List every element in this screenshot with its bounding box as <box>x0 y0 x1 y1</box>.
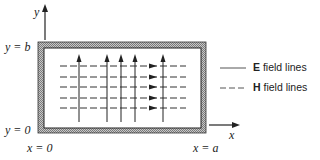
legend-h-field: H field lines <box>253 81 307 93</box>
legend-e-field: E field lines <box>253 61 307 73</box>
x-left-boundary-label: x = 0 <box>27 142 52 154</box>
y-axis-label: y <box>34 6 39 18</box>
y-axis <box>42 4 48 40</box>
legend-e-text: field lines <box>260 61 307 73</box>
x-axis-label: x <box>229 129 234 141</box>
x-right-boundary-label: x = a <box>193 142 218 154</box>
waveguide-diagram <box>0 0 320 160</box>
legend-e-symbol: E <box>253 61 260 73</box>
legend-h-text: field lines <box>261 81 308 93</box>
legend-samples <box>220 68 246 88</box>
y-top-boundary-label: y = b <box>5 41 30 53</box>
y-axis-arrow-icon <box>42 4 48 12</box>
x-axis <box>209 122 240 128</box>
y-bottom-boundary-label: y = 0 <box>5 124 30 136</box>
legend-h-symbol: H <box>253 81 261 93</box>
